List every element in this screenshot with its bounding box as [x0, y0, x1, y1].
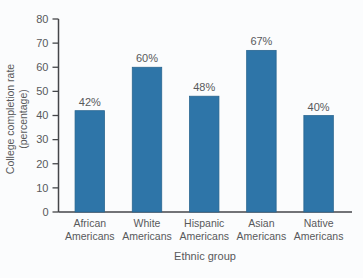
category-label: Americans	[65, 230, 115, 242]
category-label: Americans	[179, 230, 229, 242]
y-axis: 01020304050607080	[36, 13, 58, 218]
category-labels: AfricanAmericansWhiteAmericansHispanicAm…	[65, 217, 343, 242]
y-tick-label: 20	[36, 158, 48, 170]
bar	[132, 67, 162, 212]
y-axis-title-line1: College completion rate	[4, 64, 16, 174]
x-axis-title: Ethnic group	[174, 250, 236, 262]
category-label: Asian	[248, 217, 274, 229]
bar	[304, 116, 334, 213]
bar-value-label: 48%	[193, 81, 215, 93]
bar	[75, 111, 105, 212]
bar-chart-figure: 01020304050607080 42%60%48%67%40% Africa…	[0, 0, 363, 278]
bar	[189, 96, 219, 212]
y-tick-label: 60	[36, 61, 48, 73]
y-tick-label: 70	[36, 37, 48, 49]
y-axis-title: College completion rate (percentage)	[4, 64, 29, 174]
chart-svg: 01020304050607080 42%60%48%67%40% Africa…	[0, 0, 363, 278]
category-label: Native	[304, 217, 334, 229]
category-label: Hispanic	[184, 217, 224, 229]
bar	[247, 50, 277, 212]
y-tick-label: 30	[36, 133, 48, 145]
bars: 42%60%48%67%40%	[75, 35, 333, 212]
y-axis-title-line2: (percentage)	[17, 89, 29, 149]
y-tick-label: 0	[42, 206, 48, 218]
category-label: White	[134, 217, 161, 229]
bar-value-label: 60%	[136, 52, 158, 64]
bar-value-label: 42%	[79, 96, 101, 108]
y-tick-label: 80	[36, 13, 48, 25]
bar-value-label: 40%	[308, 101, 330, 113]
category-label: Americans	[294, 230, 344, 242]
category-label: Americans	[122, 230, 172, 242]
y-tick-label: 40	[36, 109, 48, 121]
y-tick-label: 50	[36, 85, 48, 97]
y-tick-label: 10	[36, 182, 48, 194]
category-label: Americans	[237, 230, 287, 242]
category-label: African	[73, 217, 106, 229]
bar-value-label: 67%	[250, 35, 272, 47]
